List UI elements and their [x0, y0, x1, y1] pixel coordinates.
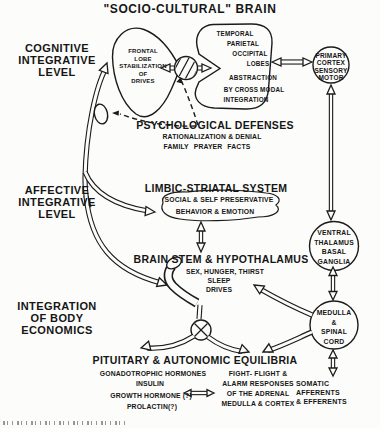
autonomic-gate-circle [141, 320, 249, 353]
medulla-brainstem-tube [254, 285, 312, 315]
medulla-label: MEDULLA & SPINAL CORD [317, 308, 352, 346]
temporal-line: TEMPORAL [217, 30, 254, 38]
prolactin-line: PROLACTIN(?) [127, 403, 177, 411]
socio-cultural-brain-diagram: "SOCIO-CULTURAL" BRAIN COGNITIVE INTEGRA… [0, 0, 380, 428]
gonadotrophic-line: GONADOTROPHIC HORMONES [100, 370, 206, 378]
lobes-line: LOBES [247, 60, 270, 68]
fight-flight-label: FIGHT- FLIGHT & ALARM RESPONSES OF THE A… [221, 369, 294, 409]
body-economics-label: INTEGRATION OF BODY ECONOMICS [17, 301, 96, 337]
social-preservative-line: SOCIAL & SELF PRESERVATIVE [165, 196, 274, 204]
ventral-medulla-arrow [329, 267, 337, 300]
primary-ventral-arrow [327, 85, 335, 220]
insulin-line: INSULIN [136, 380, 164, 388]
ventral-thalamus-label: VENTRAL THALAMUS BASAL GANGLIA [314, 228, 354, 266]
diagram-title: "SOCIO-CULTURAL" BRAIN [103, 2, 276, 17]
frontal-lobe-label: FRONTAL LOBE STABILIZATION OF DRIVES [119, 48, 166, 86]
occipital-line: OCCIPITAL [232, 50, 267, 58]
medulla-somatic-arrow [329, 350, 337, 376]
limbic-brainstem-arrow [197, 222, 205, 252]
temporal-primary-arrow [272, 58, 312, 66]
family-prayer-line: FAMILY PRAYER FACTS [164, 143, 251, 151]
sleep-line: SLEEP [207, 277, 230, 285]
drives-line: DRIVES [206, 286, 232, 294]
parietal-line: PARIETAL [227, 40, 259, 48]
integration-line: INTEGRATION [223, 96, 268, 104]
behavior-emotion-line: BEHAVIOR & EMOTION [176, 208, 254, 216]
abstraction-line: ABSTRACTION [229, 74, 277, 82]
rationalization-line: RATIONALIZATION & DENIAL [163, 133, 262, 141]
cross-modal-line: BY CROSS MODAL [224, 86, 284, 94]
psych-defenses-heading: PSYCHOLOGICAL DEFENSES [136, 119, 294, 132]
cutoff-caption-marks [3, 421, 125, 425]
medulla-pituitary-tube [263, 332, 312, 352]
affective-level-label: AFFECTIVE INTEGRATIVE LEVEL [18, 185, 96, 221]
brainstem-heading: BRAIN STEM & HYPOTHALAMUS [134, 253, 309, 266]
growth-hormone-line: GROWTH HORMONE (?) [110, 392, 192, 400]
pituitary-heading: PITUITARY & AUTONOMIC EQUILIBRIA [93, 354, 298, 367]
limbic-heading: LIMBIC-STRIATAL SYSTEM [145, 182, 288, 195]
primary-cortex-label: PRIMARY CORTEX SENSORY MOTOR [315, 52, 348, 81]
somatic-label: SOMATIC AFFERENTS & EFFERENTS [296, 379, 347, 406]
cognitive-level-label: COGNITIVE INTEGRATIVE LEVEL [18, 43, 96, 79]
sex-hunger-thirst-line: SEX, HUNGER, THIRST [186, 268, 264, 276]
